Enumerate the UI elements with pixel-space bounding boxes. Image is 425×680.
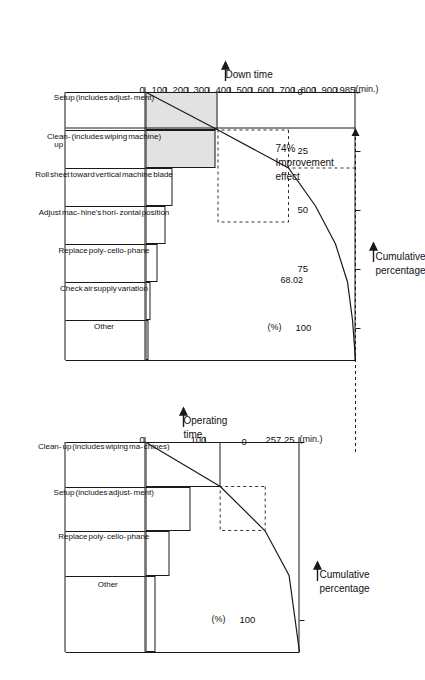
before-downtime-arrow <box>222 62 229 81</box>
